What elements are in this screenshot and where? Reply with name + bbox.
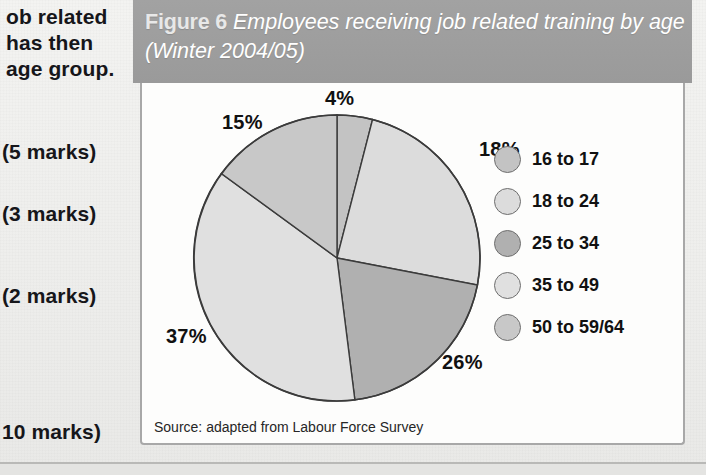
legend-item-16-to-17: 16 to 17 [494, 138, 674, 180]
exam-text-line-1: ob related [6, 4, 107, 30]
marks-label-5: (5 marks) [2, 140, 96, 164]
legend-label: 35 to 49 [532, 275, 599, 296]
exam-text-line-2: has then [6, 30, 93, 56]
pie-label-50-to-59-64: 15% [222, 111, 263, 134]
figure-panel: 4% 18% 26% 37% 15% 16 to 17 18 to 24 25 … [140, 83, 685, 445]
marks-label-3: (3 marks) [2, 202, 96, 226]
legend-swatch-icon [494, 314, 521, 341]
legend-item-18-to-24: 18 to 24 [494, 180, 674, 222]
pie-label-25-to-34: 26% [442, 351, 483, 374]
figure-number: Figure 6 [145, 10, 227, 34]
legend-swatch-icon [494, 272, 521, 299]
figure-container: Figure 6 Employees receiving job related… [133, 0, 692, 447]
legend-swatch-icon [494, 230, 521, 257]
legend-swatch-icon [494, 146, 521, 173]
page-bottom-band [0, 464, 706, 475]
legend-label: 18 to 24 [532, 191, 599, 212]
legend-label: 50 to 59/64 [532, 317, 624, 338]
pie-chart-svg [192, 113, 482, 403]
legend-item-35-to-49: 35 to 49 [494, 264, 674, 306]
marks-label-10: 10 marks) [2, 420, 101, 444]
legend-swatch-icon [494, 188, 521, 215]
figure-source-note: Source: adapted from Labour Force Survey [154, 419, 423, 435]
legend-label: 25 to 34 [532, 233, 599, 254]
figure-header-band: Figure 6 Employees receiving job related… [133, 0, 692, 83]
legend-item-25-to-34: 25 to 34 [494, 222, 674, 264]
pie-label-16-to-17: 4% [325, 87, 354, 110]
chart-legend: 16 to 17 18 to 24 25 to 34 35 to 49 50 t… [494, 138, 674, 348]
figure-title: Figure 6 Employees receiving job related… [145, 8, 685, 66]
exam-text-line-3: age group. [6, 56, 114, 82]
pie-label-35-to-49: 37% [166, 325, 207, 348]
legend-label: 16 to 17 [532, 149, 599, 170]
marks-label-2: (2 marks) [2, 284, 96, 308]
legend-item-50-to-59-64: 50 to 59/64 [494, 306, 674, 348]
